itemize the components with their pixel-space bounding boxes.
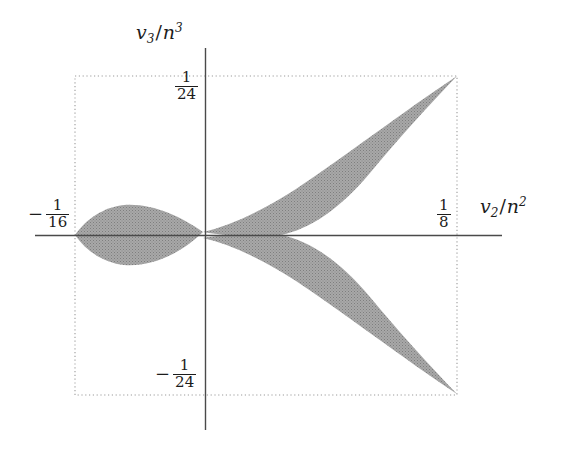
tick-x-left-fraction: 1 16: [46, 198, 69, 231]
tick-x-right-denominator: 8: [437, 214, 451, 231]
tick-label-y-top: 1 24: [172, 70, 198, 103]
tick-x-left-denominator: 16: [46, 214, 69, 231]
tick-x-left-sign: −: [28, 205, 43, 223]
tick-x-right-numerator: 1: [437, 198, 451, 214]
plot-canvas: [0, 0, 571, 450]
y-axis-label-var: v: [136, 21, 147, 43]
tick-y-top-numerator: 1: [180, 70, 194, 86]
tick-y-top-fraction: 1 24: [175, 70, 198, 103]
tick-label-y-bottom: − 1 24: [155, 358, 196, 391]
tick-x-right-fraction: 1 8: [437, 198, 451, 231]
x-axis-label-base: n: [507, 195, 519, 217]
tick-y-bottom-fraction: 1 24: [173, 358, 196, 391]
y-axis-label: v3/n3: [136, 22, 183, 45]
tick-y-top-denominator: 24: [175, 86, 198, 103]
tick-y-bottom-sign: −: [155, 365, 170, 383]
tick-label-x-right: 1 8: [434, 198, 451, 231]
figure-root: v3/n3 v2/n2 1 24 − 1 24 − 1 16 1 8: [0, 0, 571, 450]
x-axis-label-slash: /: [498, 195, 506, 217]
x-axis-label: v2/n2: [480, 196, 527, 219]
x-axis-label-var: v: [480, 195, 491, 217]
tick-y-bottom-numerator: 1: [178, 358, 192, 374]
tick-y-bottom-denominator: 24: [173, 374, 196, 391]
tick-x-left-numerator: 1: [51, 198, 65, 214]
tick-label-x-left: − 1 16: [28, 198, 69, 231]
x-axis-label-sup: 2: [519, 195, 527, 209]
y-axis-label-sup: 3: [175, 21, 183, 35]
y-axis-label-slash: /: [154, 21, 162, 43]
y-axis-label-base: n: [163, 21, 175, 43]
